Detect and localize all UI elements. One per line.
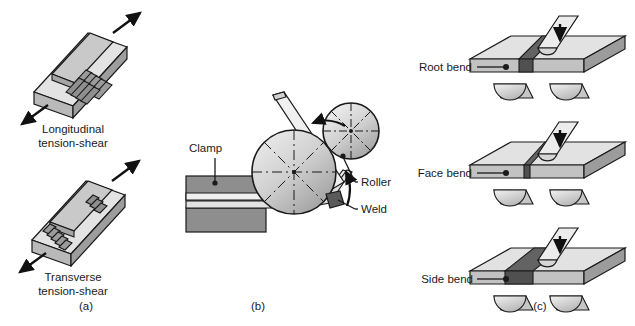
label-side-bend: Side bend [421, 273, 473, 285]
label-root-bend: Root bend [419, 61, 472, 73]
label-transverse-line1: Transverse [44, 271, 101, 283]
label-longitudinal-line1: Longitudinal [42, 123, 104, 135]
caption-panel-c: (c) [533, 300, 547, 312]
label-roller: Roller [361, 176, 391, 188]
label-face-bend: Face bend [418, 167, 472, 179]
caption-panel-a: (a) [79, 300, 93, 312]
caption-panel-b: (b) [251, 300, 265, 312]
label-clamp: Clamp [189, 142, 222, 154]
label-longitudinal-line2: tension-shear [38, 137, 108, 149]
roller-small [323, 103, 379, 159]
label-transverse-line2: tension-shear [38, 285, 108, 297]
weld-test-figure: Longitudinal tension-shear [0, 0, 635, 326]
label-weld: Weld [361, 203, 387, 215]
roller-large [252, 130, 336, 214]
